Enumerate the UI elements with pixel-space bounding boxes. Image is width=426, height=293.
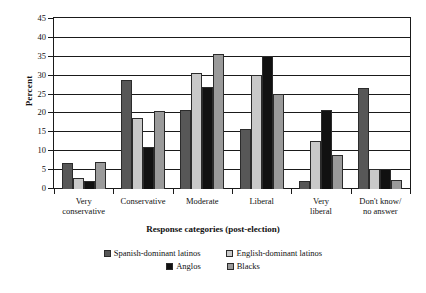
x-tick-mark	[410, 189, 411, 194]
x-tick-mark	[291, 189, 292, 194]
x-category-label: Conservative	[113, 196, 172, 216]
bar	[154, 111, 165, 189]
legend-label: English-dominant latinos	[236, 248, 322, 258]
bar	[380, 169, 391, 189]
bar-group	[113, 18, 172, 189]
bar	[358, 88, 369, 189]
legend-label: Spanish-dominant latinos	[114, 248, 201, 258]
legend-swatch-icon	[166, 263, 173, 270]
y-tick-label: 15	[18, 126, 46, 136]
legend-swatch-icon	[227, 263, 234, 270]
y-tick-label: 20	[18, 107, 46, 117]
y-tick-label: 5	[18, 164, 46, 174]
bar	[332, 155, 343, 189]
bar-group	[232, 18, 291, 189]
legend-row-1: Spanish-dominant latinosEnglish-dominant…	[0, 248, 426, 258]
x-axis-category-labels: VeryconservativeConservativeModerateLibe…	[54, 196, 410, 216]
x-tick-mark	[232, 189, 233, 194]
bar-chart: Percent 051015202530354045 Veryconservat…	[0, 0, 426, 293]
bar-group	[54, 18, 113, 189]
bar-group	[173, 18, 232, 189]
bar	[262, 56, 273, 189]
legend-item: Blacks	[227, 261, 260, 271]
y-tick-label: 10	[18, 145, 46, 155]
x-tick-mark	[54, 189, 55, 194]
bar	[132, 118, 143, 189]
bar	[299, 181, 310, 189]
x-category-label: Moderate	[173, 196, 232, 216]
bar	[321, 110, 332, 189]
bar	[202, 87, 213, 189]
bar-group	[291, 18, 350, 189]
x-category-label: Liberal	[232, 196, 291, 216]
bar	[273, 94, 284, 189]
bar-groups	[54, 18, 410, 189]
bar	[143, 147, 154, 189]
y-tick-label: 0	[18, 183, 46, 193]
bar-group	[351, 18, 410, 189]
legend-item: Anglos	[166, 261, 201, 271]
y-tick-label: 30	[18, 70, 46, 80]
y-tick-label: 45	[18, 13, 46, 23]
legend-row-2: AnglosBlacks	[0, 261, 426, 271]
y-tick-label: 40	[18, 32, 46, 42]
bar	[180, 110, 191, 189]
x-category-label: Veryconservative	[54, 196, 113, 216]
bar	[369, 169, 380, 189]
y-tick-label: 35	[18, 51, 46, 61]
x-tick-mark	[351, 189, 352, 194]
bar	[95, 162, 106, 189]
bar	[391, 180, 402, 189]
bar	[213, 54, 224, 189]
legend-label: Anglos	[176, 261, 201, 271]
x-category-label: Don't know/no answer	[351, 196, 410, 216]
y-tick-label: 25	[18, 89, 46, 99]
x-category-label: Veryliberal	[291, 196, 350, 216]
x-tick-mark	[173, 189, 174, 194]
bar	[191, 73, 202, 189]
bar	[73, 178, 84, 189]
legend-item: English-dominant latinos	[226, 248, 322, 258]
legend-swatch-icon	[104, 250, 111, 257]
bar	[62, 163, 73, 189]
x-axis-title: Response categories (post-election)	[0, 224, 426, 234]
legend-item: Spanish-dominant latinos	[104, 248, 201, 258]
legend: Spanish-dominant latinosEnglish-dominant…	[0, 248, 426, 274]
bar	[84, 181, 95, 189]
legend-label: Blacks	[237, 261, 260, 271]
bar	[240, 129, 251, 189]
bar	[121, 80, 132, 189]
legend-swatch-icon	[226, 250, 233, 257]
x-tick-mark	[113, 189, 114, 194]
bar	[310, 141, 321, 189]
bar	[251, 75, 262, 189]
